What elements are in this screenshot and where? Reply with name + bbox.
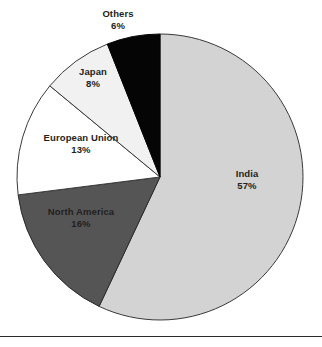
- pie-label-north-america-value: 16%: [24, 218, 138, 230]
- pie-label-india-name: India: [212, 168, 282, 180]
- pie-label-others-name: Others: [72, 8, 164, 20]
- pie-label-japan-value: 8%: [58, 78, 128, 90]
- pie-label-north-america: North America 16%: [24, 206, 138, 229]
- pie-label-japan: Japan 8%: [58, 66, 128, 89]
- pie-label-european-union-value: 13%: [22, 144, 140, 156]
- pie-label-japan-name: Japan: [58, 66, 128, 78]
- pie-chart-figure: Others 6% Japan 8% European Union 13% No…: [0, 0, 322, 347]
- figure-bottom-rule: [0, 336, 322, 337]
- pie-label-india: India 57%: [212, 168, 282, 191]
- pie-label-north-america-name: North America: [24, 206, 138, 218]
- pie-label-others: Others 6%: [72, 8, 164, 31]
- pie-label-european-union-name: European Union: [22, 132, 140, 144]
- pie-label-others-value: 6%: [72, 20, 164, 32]
- pie-label-european-union: European Union 13%: [22, 132, 140, 155]
- pie-label-india-value: 57%: [212, 180, 282, 192]
